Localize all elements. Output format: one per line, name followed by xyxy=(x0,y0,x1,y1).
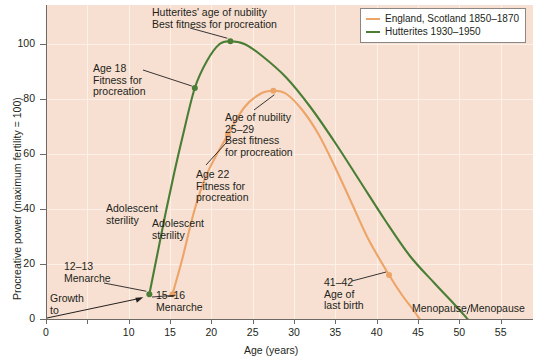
x-tick xyxy=(129,319,130,324)
anno-line: Fitness for xyxy=(196,180,245,192)
annotation-menopause-green: Menopause xyxy=(470,303,525,315)
y-tick-label: 0 xyxy=(5,312,35,324)
anno-line: Age 22 xyxy=(196,168,229,180)
gridline-horizontal xyxy=(46,44,533,45)
annotation-age-of-nubility: Age of nubility25–29Best fitnessfor proc… xyxy=(225,112,293,158)
x-tick-label: 50 xyxy=(444,326,474,338)
annotation-hutterites-nubility: Hutterites' age of nubilityBest fitness … xyxy=(152,7,277,30)
legend-label-england: England, Scotland 1850–1870 xyxy=(385,13,519,24)
chart-root: 020406080100010152025303540455055 Procre… xyxy=(0,0,533,362)
x-tick-label: 45 xyxy=(403,326,433,338)
x-tick-label: 20 xyxy=(196,326,226,338)
x-tick xyxy=(46,319,47,324)
anno-line: Adolescent xyxy=(152,217,204,229)
legend-label-hutterites: Hutterites 1930–1950 xyxy=(385,26,481,37)
legend-item-england: England, Scotland 1850–1870 xyxy=(366,12,520,25)
gridline-vertical xyxy=(459,5,460,319)
legend-swatch-england xyxy=(366,18,380,20)
annotation-age-18: Age 18Fitness forprocreation xyxy=(93,63,146,98)
anno-line: 25–29 xyxy=(225,123,254,135)
y-tick-label: 100 xyxy=(5,37,35,49)
anno-line: Age 18 xyxy=(93,62,126,74)
y-tick xyxy=(40,209,46,210)
y-tick xyxy=(40,264,46,265)
anno-line: Menarche xyxy=(64,272,111,284)
gridline-vertical xyxy=(294,5,295,319)
gridline-horizontal xyxy=(46,264,533,265)
y-tick xyxy=(40,154,46,155)
anno-line: 15–16 xyxy=(156,289,185,301)
anno-line: to xyxy=(50,304,59,316)
gridline-vertical xyxy=(335,5,336,319)
x-tick xyxy=(335,319,336,324)
gridline-vertical xyxy=(377,5,378,319)
gridline-vertical xyxy=(253,5,254,319)
x-tick-label: 55 xyxy=(486,326,516,338)
annotation-menopause-orange: Menopause xyxy=(412,303,467,315)
annotation-adolescent-sterility-green: Adolescentsterility xyxy=(106,203,158,226)
legend: England, Scotland 1850–1870 Hutterites 1… xyxy=(360,8,526,43)
anno-line: procreation xyxy=(93,85,146,97)
anno-line: Growth xyxy=(50,292,84,304)
anno-line: procreation xyxy=(196,191,249,203)
gridline-vertical xyxy=(129,5,130,319)
anno-line: 41–42 xyxy=(324,276,353,288)
gridline-horizontal xyxy=(46,99,533,100)
x-tick-label: 35 xyxy=(320,326,350,338)
legend-swatch-hutterites xyxy=(366,31,380,33)
annotation-menarche-12-13: 12–13Menarche xyxy=(64,261,111,284)
gridline-vertical xyxy=(170,5,171,319)
x-tick xyxy=(418,319,419,324)
anno-line: Age of nubility xyxy=(225,111,291,123)
x-tick xyxy=(87,319,88,324)
x-tick-label: 40 xyxy=(362,326,392,338)
y-axis-title: Procreative power (maximum fertility = 1… xyxy=(11,97,23,300)
x-tick xyxy=(170,319,171,324)
y-axis-line xyxy=(46,5,47,319)
anno-line: Hutterites' age of nubility xyxy=(152,6,267,18)
anno-line: sterility xyxy=(106,214,139,226)
x-tick-label: 30 xyxy=(279,326,309,338)
annotation-age-22: Age 22Fitness forprocreation xyxy=(196,169,249,204)
gridline-vertical xyxy=(418,5,419,319)
anno-line: 12–13 xyxy=(64,260,93,272)
annotation-adolescent-sterility-orange: Adolescentsterility xyxy=(152,218,204,241)
anno-line: for procreation xyxy=(225,146,293,158)
anno-line: Best fitness for procreation xyxy=(152,18,277,30)
x-tick xyxy=(294,319,295,324)
annotation-growth-to: Growthto xyxy=(50,293,84,316)
anno-line: last birth xyxy=(324,299,364,311)
y-tick xyxy=(40,99,46,100)
annotation-menarche-15-16: 15–16Menarche xyxy=(156,290,203,313)
x-tick-label: 25 xyxy=(238,326,268,338)
anno-line: Age of xyxy=(324,288,354,300)
x-tick xyxy=(377,319,378,324)
x-tick xyxy=(501,319,502,324)
gridline-vertical xyxy=(501,5,502,319)
anno-line: Menarche xyxy=(156,301,203,313)
anno-line: Adolescent xyxy=(106,202,158,214)
x-tick-label: 0 xyxy=(31,326,61,338)
anno-line: Fitness for xyxy=(93,74,142,86)
anno-line: Best fitness xyxy=(225,134,279,146)
x-tick xyxy=(211,319,212,324)
legend-item-hutterites: Hutterites 1930–1950 xyxy=(366,25,520,38)
x-tick-label: 15 xyxy=(155,326,185,338)
plot-area xyxy=(46,5,533,319)
x-tick xyxy=(253,319,254,324)
x-tick xyxy=(459,319,460,324)
anno-line: sterility xyxy=(152,229,185,241)
x-tick-label: 10 xyxy=(114,326,144,338)
x-axis-title: Age (years) xyxy=(244,344,298,356)
gridline-vertical xyxy=(211,5,212,319)
y-tick xyxy=(40,44,46,45)
annotation-age-last-birth: 41–42Age oflast birth xyxy=(324,277,364,312)
